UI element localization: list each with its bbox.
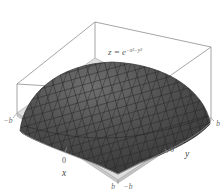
y-axis-name: y [184,149,190,159]
equation-annotation: z = e−x²−y² [107,47,142,57]
y-tick-label-minus-b: −b [124,182,133,190]
x-tick-label-b: b [111,182,115,190]
surface-plot-figure: z = e−x²−y² −b 0 x b −b 0 y b [0,0,224,190]
equation-base: z = e [107,47,126,57]
x-tick-label-zero: 0 [62,156,66,165]
y-tick-label-zero: 0 [170,145,174,154]
tick-x-minus-b [13,113,17,118]
surface-mesh [0,40,224,190]
x-axis-name: x [61,168,67,178]
y-tick-label-b: b [216,119,220,128]
gaussian-surface [0,40,224,190]
surface-plot-canvas: z = e−x²−y² −b 0 x b −b 0 y b [0,0,224,190]
equation-exponent: −x²−y² [126,47,142,53]
x-tick-label-minus-b: −b [4,116,13,125]
tick-y-b [211,118,214,121]
